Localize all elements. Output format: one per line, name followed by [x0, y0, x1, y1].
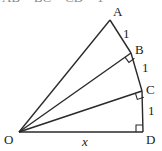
segment-OA: [19, 20, 110, 132]
geometry-figure: AB = BC = CD = 1 A B C D O 1 1 1 x: [0, 0, 162, 151]
caption-cropped: AB = BC = CD = 1: [2, 0, 103, 5]
label-D: D: [146, 132, 155, 147]
length-CD: 1: [148, 103, 155, 118]
segment-OC: [19, 91, 142, 132]
right-angle-icon-D: [136, 125, 143, 132]
label-A: A: [113, 4, 123, 19]
length-AB: 1: [123, 26, 130, 41]
segment-BC: [131, 53, 142, 91]
right-angle-markers: [125, 57, 144, 132]
segment-OB: [19, 53, 131, 132]
length-BC: 1: [142, 60, 149, 75]
length-OD: x: [81, 134, 88, 149]
label-C: C: [146, 82, 155, 97]
label-B: B: [135, 42, 144, 57]
label-O: O: [4, 132, 13, 147]
